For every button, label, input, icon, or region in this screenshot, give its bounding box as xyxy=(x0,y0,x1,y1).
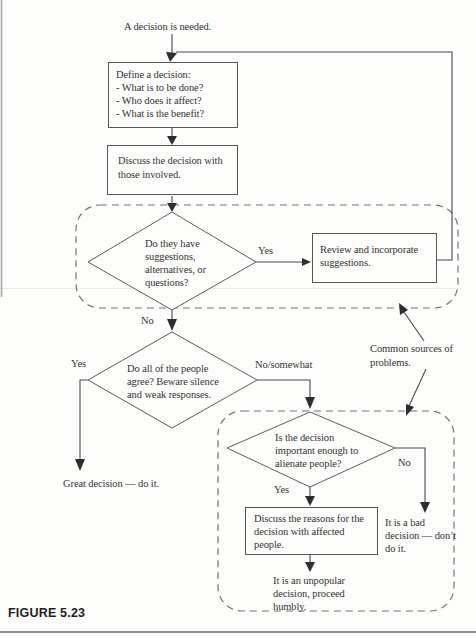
define-box: Define a decision: - What is to be done?… xyxy=(108,62,238,128)
figure-page: A decision is needed. Define a decision:… xyxy=(0,0,476,639)
discuss-reasons-box: Discuss the reasons for the decision wit… xyxy=(245,507,378,555)
discuss-box: Discuss the decision with those involved… xyxy=(107,145,238,195)
arrowhead-pointer-region-1 xyxy=(399,303,408,315)
yes-label-alienate: Yes xyxy=(274,483,289,496)
no-label-suggestions: No xyxy=(141,314,154,327)
common-sources-pointer-up xyxy=(404,312,424,341)
define-line: - What is the benefit? xyxy=(116,107,233,120)
review-line: Review and incorporate xyxy=(320,243,432,256)
arrowhead-into-bad xyxy=(420,502,430,513)
reasons-line: Discuss the reasons for the xyxy=(254,512,373,525)
agree-diamond-text: Do all of the people agree? Beware silen… xyxy=(127,362,219,401)
arrowhead-into-agree xyxy=(167,319,177,331)
review-line: suggestions. xyxy=(320,256,432,269)
figure-caption: FIGURE 5.23 xyxy=(8,606,85,620)
arrow-agree-yes xyxy=(80,380,88,459)
discuss-line: those involved. xyxy=(118,168,233,182)
review-box: Review and incorporate suggestions. xyxy=(312,233,437,283)
arrowhead-into-discuss xyxy=(167,136,177,145)
arrowhead-into-suggestions xyxy=(167,203,177,212)
alienate-diamond-text: Is the decision important enough to alie… xyxy=(275,431,358,470)
no-somewhat-label: No/somewhat xyxy=(255,358,312,371)
arrowhead-into-reasons xyxy=(305,496,315,506)
yes-label-suggestions: Yes xyxy=(258,244,273,257)
arrow-agree-no-somewhat xyxy=(257,380,310,398)
arrowhead-into-alienate xyxy=(305,397,315,409)
yes-label-agree: Yes xyxy=(71,357,86,370)
discuss-line: Discuss the decision with xyxy=(118,154,233,168)
reasons-line: decision with affected xyxy=(254,525,373,538)
common-sources-label: Common sources of problems. xyxy=(370,342,453,370)
no-label-alienate: No xyxy=(398,456,411,469)
bad-decision-text: It is a bad decision — don’t do it. xyxy=(385,516,456,555)
start-text: A decision is needed. xyxy=(124,20,211,33)
arrowhead-into-define xyxy=(166,52,177,62)
reasons-line: people. xyxy=(254,538,373,551)
unpopular-decision-text: It is an unpopular decision, proceed hum… xyxy=(273,574,345,613)
great-decision-text: Great decision — do it. xyxy=(63,477,159,490)
define-line: - What is to be done? xyxy=(116,81,233,94)
suggestions-diamond-text: Do they have suggestions, alternatives, … xyxy=(145,237,206,289)
arrowhead-into-great xyxy=(75,459,85,471)
arrowhead-into-review xyxy=(302,258,311,266)
arrowhead-pointer-region-2 xyxy=(406,404,414,416)
arrowhead-into-unpopular xyxy=(305,562,315,572)
define-line: Define a decision: xyxy=(116,68,233,81)
common-sources-pointer-down xyxy=(409,369,426,406)
define-line: - Who does it affect? xyxy=(116,94,233,107)
